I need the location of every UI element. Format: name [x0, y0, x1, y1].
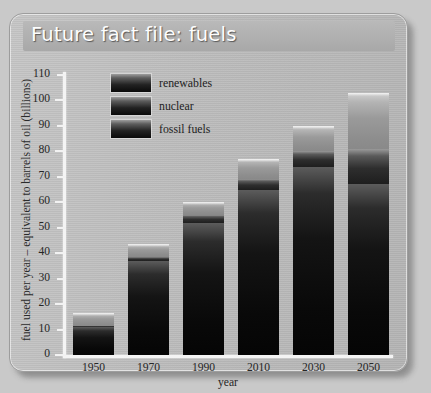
y-axis-tick [57, 74, 66, 76]
legend-swatch-fossil-fuels-icon [111, 120, 151, 138]
bar-segment-nuclear [128, 257, 169, 261]
bar-segment-fossil-fuels [238, 190, 279, 355]
legend-label-renewables: renewables [159, 76, 212, 91]
y-axis-tick [57, 227, 66, 229]
y-axis-tick-label: 20 [18, 296, 50, 309]
bar-segment-nuclear [293, 151, 334, 166]
x-axis-label: year [63, 376, 393, 389]
bar-top-highlight [348, 93, 389, 96]
legend-label-fossil-fuels: fossil fuels [159, 122, 210, 137]
y-axis-tick-label: 110 [18, 67, 50, 80]
y-axis-tick-label: 10 [18, 322, 50, 335]
y-axis-tick [55, 150, 66, 152]
x-axis-tick-label: 2030 [285, 361, 343, 374]
chart-panel: Future fact file: fuels fuel used per ye… [9, 13, 408, 372]
bar-top-highlight [238, 159, 279, 162]
bar-1970 [128, 14, 169, 355]
bar-1990 [183, 14, 224, 355]
legend: renewables nuclear fossil fuels [111, 73, 241, 142]
bar-segment-fossil-fuels [348, 184, 389, 355]
bar-segment-nuclear [73, 326, 114, 327]
legend-swatch-renewables-icon [111, 74, 151, 92]
legend-swatch-nuclear-icon [111, 97, 151, 115]
list-item: fossil fuels [111, 119, 241, 141]
y-axis-tick [57, 278, 66, 280]
bar-segment-renewables [348, 93, 389, 149]
y-axis-tick [55, 354, 66, 356]
plot-area: fuel used per year – equivalent to barre… [10, 14, 409, 373]
y-axis-tick [55, 99, 66, 101]
y-axis-tick-label: 70 [18, 169, 50, 182]
x-axis-tick-label: 1970 [120, 361, 178, 374]
x-axis-tick-label: 1990 [175, 361, 233, 374]
x-axis-line [63, 355, 393, 358]
y-axis-line [63, 72, 66, 358]
bar-2050 [348, 14, 389, 355]
y-axis-tick [57, 176, 66, 178]
y-axis-tick [55, 303, 66, 305]
list-item: renewables [111, 73, 241, 95]
bar-segment-nuclear [348, 149, 389, 185]
bar-segment-nuclear [183, 215, 224, 223]
legend-label-nuclear: nuclear [159, 99, 194, 114]
y-axis-tick-label: 50 [18, 220, 50, 233]
bar-2030 [293, 14, 334, 355]
y-axis-tick-label: 40 [18, 245, 50, 258]
y-axis-tick-label: 60 [18, 194, 50, 207]
bar-1950 [73, 14, 114, 355]
bar-top-highlight [183, 202, 224, 205]
bar-segment-renewables [293, 126, 334, 151]
bar-2010 [238, 14, 279, 355]
y-axis-tick-label: 100 [18, 92, 50, 105]
bar-top-highlight [128, 244, 169, 247]
y-axis-tick-label: 90 [18, 118, 50, 131]
bar-segment-nuclear [238, 179, 279, 189]
y-axis-tick-label: 80 [18, 143, 50, 156]
y-axis-tick [55, 201, 66, 203]
bar-segment-fossil-fuels [73, 327, 114, 355]
x-axis-tick-label: 2050 [340, 361, 398, 374]
x-axis-tick-label: 2010 [230, 361, 288, 374]
bar-top-highlight [293, 126, 334, 129]
y-axis-tick [57, 329, 66, 331]
bar-segment-fossil-fuels [128, 261, 169, 355]
bar-segment-fossil-fuels [183, 223, 224, 355]
bar-top-highlight [73, 313, 114, 316]
y-axis-tick-label: 30 [18, 271, 50, 284]
bar-segment-renewables [238, 159, 279, 179]
y-axis-tick [55, 252, 66, 254]
y-axis-tick-label: 0 [18, 347, 50, 360]
list-item: nuclear [111, 96, 241, 118]
bar-segment-fossil-fuels [293, 167, 334, 355]
y-axis-tick [57, 125, 66, 127]
x-axis-tick-label: 1950 [65, 361, 123, 374]
